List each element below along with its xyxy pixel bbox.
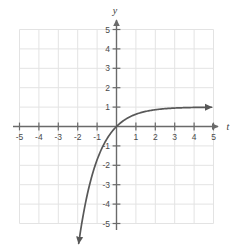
y-tick-label: 1 [105, 102, 110, 112]
y-tick-label: -5 [102, 219, 110, 229]
x-tick-label: -1 [93, 132, 101, 142]
y-axis-label: y [112, 5, 118, 16]
x-axis-label: t [227, 121, 230, 132]
y-tick-label: -2 [102, 160, 110, 170]
y-tick-label: 4 [105, 44, 110, 54]
y-tick-label: 2 [105, 83, 110, 93]
y-tick-label: -4 [102, 199, 110, 209]
figure-background [0, 0, 245, 250]
exponential-graph-figure: -5 -4 -3 -2 -1 1 2 3 4 5 5 4 3 2 1 -1 -2… [0, 0, 245, 250]
y-tick-label: -3 [102, 180, 110, 190]
x-tick-label: -4 [35, 132, 43, 142]
y-tick-label: 5 [105, 25, 110, 35]
x-tick-label: -3 [55, 132, 63, 142]
x-tick-label: 1 [134, 132, 139, 142]
x-tick-label: 4 [192, 132, 197, 142]
x-tick-label: 3 [172, 132, 177, 142]
x-tick-label: -2 [74, 132, 82, 142]
x-tick-label: -5 [16, 132, 24, 142]
x-tick-label: 2 [153, 132, 158, 142]
y-tick-label: 3 [105, 63, 110, 73]
coordinate-plane-svg: -5 -4 -3 -2 -1 1 2 3 4 5 5 4 3 2 1 -1 -2… [0, 0, 245, 250]
x-tick-label: 5 [211, 132, 216, 142]
